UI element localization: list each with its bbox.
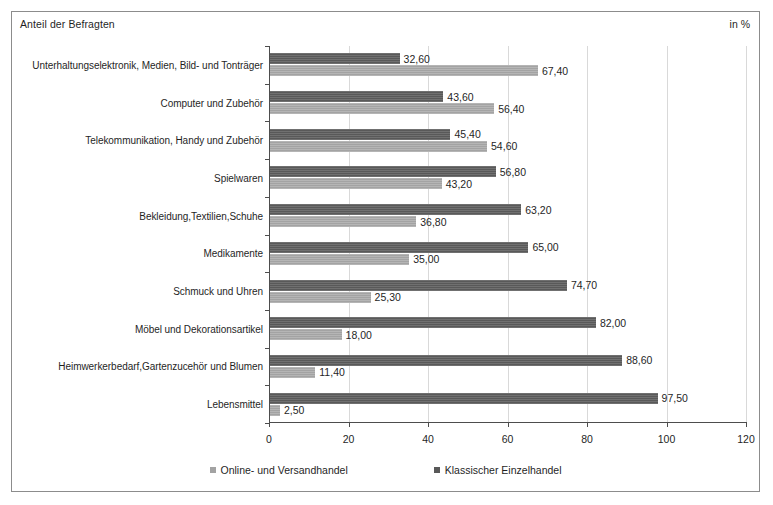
bar-value-label: 35,00 [413, 253, 439, 265]
x-axis-tick-label: 40 [422, 433, 434, 445]
chart-unit-label: in % [730, 18, 750, 30]
bar-row[interactable]: 25,30 [270, 292, 746, 303]
category-label: Computer und Zubehör [161, 97, 263, 108]
bar-classic[interactable] [270, 280, 567, 291]
legend-item-classic[interactable]: Klassischer Einzelhandel [434, 464, 562, 476]
bar-value-label: 54,60 [491, 140, 517, 152]
bar-group: Bekleidung,Textilien,Schuhe63,2036,80 [270, 197, 746, 235]
chart-header: Anteil der Befragten in % [12, 12, 759, 40]
bar-value-label: 11,40 [319, 366, 345, 378]
chart-legend: Online- und VersandhandelKlassischer Ein… [12, 464, 759, 476]
bar-row[interactable]: 63,20 [270, 204, 746, 215]
category-label: Möbel und Dekorationsartikel [135, 323, 263, 334]
bar-classic[interactable] [270, 166, 496, 177]
bar-value-label: 56,40 [498, 103, 524, 115]
chart-axis-title-left: Anteil der Befragten [20, 18, 115, 30]
bar-online[interactable] [270, 292, 371, 303]
category-label: Spielwaren [214, 172, 263, 183]
category-label: Schmuck und Uhren [173, 286, 263, 297]
x-axis-tick-label: 80 [581, 433, 593, 445]
bar-row[interactable]: 43,60 [270, 91, 746, 102]
bar-online[interactable] [270, 141, 487, 152]
bar-online[interactable] [270, 405, 280, 416]
bar-online[interactable] [270, 329, 342, 340]
bar-classic[interactable] [270, 91, 443, 102]
category-label: Unterhaltungselektronik, Medien, Bild- u… [32, 59, 263, 70]
bar-classic[interactable] [270, 204, 521, 215]
bar-group: Medikamente65,0035,00 [270, 235, 746, 273]
bar-value-label: 32,60 [404, 53, 430, 65]
bar-group: Möbel und Dekorationsartikel82,0018,00 [270, 310, 746, 348]
bar-value-label: 63,20 [525, 204, 551, 216]
bar-online[interactable] [270, 367, 315, 378]
bar-row[interactable]: 82,00 [270, 317, 746, 328]
bar-online[interactable] [270, 178, 442, 189]
x-axis-tick-label: 20 [343, 433, 355, 445]
chart-figure-frame: Anteil der Befragten in % 02040608010012… [11, 11, 760, 492]
bar-classic[interactable] [270, 242, 528, 253]
bar-row[interactable]: 67,40 [270, 65, 746, 76]
bar-row[interactable]: 45,40 [270, 129, 746, 140]
legend-swatch-icon [434, 467, 440, 473]
bar-value-label: 25,30 [375, 291, 401, 303]
bar-online[interactable] [270, 254, 409, 265]
bar-row[interactable]: 18,00 [270, 329, 746, 340]
chart-plot-area: 020406080100120 Unterhaltungselektronik,… [269, 46, 746, 423]
bar-row[interactable]: 35,00 [270, 254, 746, 265]
bar-group: Heimwerkerbedarf,Gartenzucehör und Blume… [270, 348, 746, 386]
bar-classic[interactable] [270, 129, 450, 140]
bar-value-label: 45,40 [454, 128, 480, 140]
bar-group: Telekommunikation, Handy und Zubehör45,4… [270, 121, 746, 159]
bar-online[interactable] [270, 216, 416, 227]
category-label: Telekommunikation, Handy und Zubehör [85, 135, 263, 146]
bar-value-label: 82,00 [600, 317, 626, 329]
bar-row[interactable]: 56,80 [270, 166, 746, 177]
gridline [746, 46, 747, 423]
bar-row[interactable]: 11,40 [270, 367, 746, 378]
category-label: Medikamente [204, 248, 263, 259]
bar-row[interactable]: 88,60 [270, 355, 746, 366]
category-label: Lebensmittel [207, 399, 263, 410]
bar-row[interactable]: 97,50 [270, 393, 746, 404]
bar-value-label: 36,80 [420, 216, 446, 228]
bar-value-label: 88,60 [626, 354, 652, 366]
x-axis-tick-label: 0 [266, 433, 272, 445]
bar-group: Unterhaltungselektronik, Medien, Bild- u… [270, 46, 746, 84]
bar-value-label: 67,40 [542, 65, 568, 77]
bar-row[interactable]: 32,60 [270, 53, 746, 64]
y-axis-tick [265, 423, 270, 424]
bar-group: Computer und Zubehör43,6056,40 [270, 84, 746, 122]
bar-row[interactable]: 43,20 [270, 178, 746, 189]
bar-group: Spielwaren56,8043,20 [270, 159, 746, 197]
x-axis-tick-label: 120 [737, 433, 755, 445]
legend-label: Online- und Versandhandel [221, 464, 348, 476]
bar-value-label: 18,00 [346, 329, 372, 341]
bar-group: Lebensmittel97,502,50 [270, 385, 746, 423]
bar-value-label: 56,80 [500, 166, 526, 178]
bar-row[interactable]: 56,40 [270, 103, 746, 114]
bar-classic[interactable] [270, 53, 400, 64]
legend-label: Klassischer Einzelhandel [445, 464, 562, 476]
bar-row[interactable]: 2,50 [270, 405, 746, 416]
category-label: Bekleidung,Textilien,Schuhe [139, 210, 263, 221]
legend-swatch-icon [210, 467, 216, 473]
bar-row[interactable]: 74,70 [270, 280, 746, 291]
legend-item-online[interactable]: Online- und Versandhandel [210, 464, 348, 476]
x-axis-tick-label: 60 [502, 433, 514, 445]
bar-group: Schmuck und Uhren74,7025,30 [270, 272, 746, 310]
bar-row[interactable]: 65,00 [270, 242, 746, 253]
bar-row[interactable]: 36,80 [270, 216, 746, 227]
bar-value-label: 65,00 [532, 241, 558, 253]
bar-classic[interactable] [270, 355, 622, 366]
category-label: Heimwerkerbedarf,Gartenzucehör und Blume… [58, 361, 263, 372]
bar-value-label: 74,70 [571, 279, 597, 291]
bar-online[interactable] [270, 103, 494, 114]
bar-online[interactable] [270, 65, 538, 76]
bar-classic[interactable] [270, 393, 658, 404]
bar-value-label: 97,50 [662, 392, 688, 404]
x-axis-tick-label: 100 [658, 433, 676, 445]
bar-value-label: 43,60 [447, 91, 473, 103]
bar-row[interactable]: 54,60 [270, 141, 746, 152]
bar-classic[interactable] [270, 317, 596, 328]
bar-value-label: 2,50 [284, 404, 304, 416]
